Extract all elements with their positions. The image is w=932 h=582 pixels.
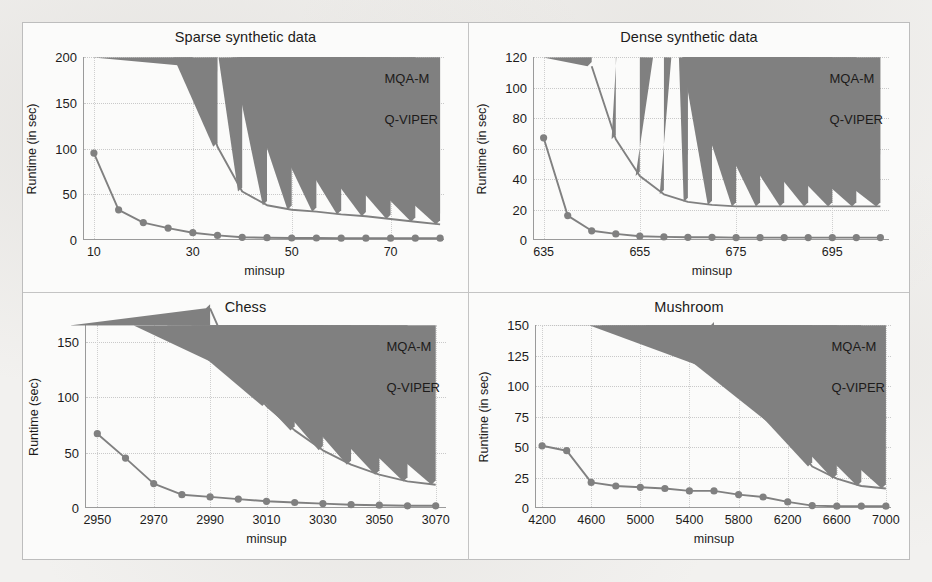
x-axis-tick-label: 3010 — [253, 513, 281, 527]
chart-panel-dense-synthetic-data: Dense synthetic data 0204060801001206356… — [469, 23, 909, 293]
plot-dense: 020406080100120635655675695Runtime (in s… — [533, 57, 889, 240]
plot-sparse: 05010015020010305070Runtime (in sec)mins… — [83, 57, 444, 240]
chart-panel-mushroom: Mushroom 0255075100125150420046005000540… — [469, 293, 909, 560]
x-axis-tick-label: 635 — [533, 245, 554, 259]
y-axis-tick-label: 120 — [505, 50, 527, 65]
circle-marker-icon — [351, 114, 381, 126]
circle-marker-icon — [781, 234, 788, 241]
circle-marker-icon — [829, 234, 836, 241]
circle-marker-icon — [757, 234, 764, 241]
circle-marker-icon — [387, 235, 394, 242]
y-axis-tick-label: 50 — [515, 440, 529, 455]
legend-item-q-viper[interactable]: Q-VIPER — [798, 380, 885, 395]
x-axis-tick-label: 2990 — [196, 513, 224, 527]
triangle-marker-icon — [353, 341, 383, 353]
circle-marker-icon — [858, 503, 865, 510]
x-axis-tick-label: 10 — [87, 245, 101, 259]
y-axis-tick-label: 100 — [505, 80, 527, 95]
circle-marker-icon — [263, 498, 270, 505]
circle-marker-icon — [710, 487, 717, 494]
legend-label: MQA-M — [385, 339, 432, 354]
circle-marker-icon — [362, 235, 369, 242]
x-axis-tick-label: 675 — [726, 245, 747, 259]
chart-legend: MQA-MQ-VIPER — [798, 339, 885, 421]
legend-item-q-viper[interactable]: Q-VIPER — [796, 112, 883, 127]
circle-marker-icon — [636, 233, 643, 240]
series-layer — [86, 325, 386, 475]
plot-chess: 0501001502950297029903010303030503070Run… — [85, 325, 446, 508]
legend-label: MQA-M — [828, 71, 875, 86]
x-axis-tick-label: 655 — [629, 245, 650, 259]
legend-item-mqa-m[interactable]: MQA-M — [798, 339, 885, 354]
circle-marker-icon — [140, 219, 147, 226]
circle-marker-icon — [150, 480, 157, 487]
chart-title-dense: Dense synthetic data — [469, 29, 909, 45]
y-axis-label: Runtime (in sec) — [475, 103, 489, 194]
x-axis-tick-label: 695 — [822, 245, 843, 259]
series-layer — [534, 57, 834, 207]
chart-title-mushroom: Mushroom — [469, 299, 909, 315]
y-axis-tick-label: 40 — [513, 172, 527, 187]
circle-marker-icon — [189, 229, 196, 236]
circle-marker-icon — [796, 114, 826, 126]
y-axis-tick-label: 100 — [57, 390, 79, 405]
x-axis-tick-label: 7000 — [872, 513, 900, 527]
circle-marker-icon — [660, 233, 667, 240]
circle-marker-icon — [807, 116, 814, 123]
triangle-marker-icon — [798, 341, 828, 353]
circle-marker-icon — [338, 235, 345, 242]
circle-marker-icon — [588, 479, 595, 486]
y-axis-tick-label: 50 — [65, 445, 79, 460]
circle-marker-icon — [833, 503, 840, 510]
circle-marker-icon — [207, 493, 214, 500]
x-axis-tick-label: 5000 — [626, 513, 654, 527]
circle-marker-icon — [90, 150, 97, 157]
plot-area: 0255075100125150420046005000540058006200… — [535, 325, 891, 508]
series-layer — [536, 325, 836, 475]
y-axis-tick-label: 150 — [57, 334, 79, 349]
y-axis-tick-label: 100 — [507, 379, 529, 394]
legend-label: MQA-M — [383, 71, 430, 86]
circle-marker-icon — [539, 442, 546, 449]
circle-marker-icon — [412, 235, 419, 242]
circle-marker-icon — [437, 235, 444, 242]
circle-marker-icon — [291, 499, 298, 506]
y-axis-label: Runtime (sec) — [27, 378, 41, 456]
circle-marker-icon — [263, 234, 270, 241]
circle-marker-icon — [637, 484, 644, 491]
y-axis-tick-label: 50 — [63, 187, 77, 202]
gridline-vertical — [886, 325, 887, 507]
circle-marker-icon — [115, 206, 122, 213]
x-axis-label: minsup — [86, 532, 447, 546]
chart-panel-sparse-synthetic-data: Sparse synthetic data 050100150200103050… — [23, 23, 469, 293]
circle-marker-icon — [877, 234, 884, 241]
triangle-marker-icon — [636, 57, 653, 176]
circle-marker-icon — [588, 227, 595, 234]
y-axis-tick-label: 125 — [507, 348, 529, 363]
figure-frame: Sparse synthetic data 050100150200103050… — [22, 22, 910, 560]
circle-marker-icon — [235, 496, 242, 503]
circle-marker-icon — [432, 502, 439, 509]
triangle-marker-icon — [796, 73, 826, 85]
legend-item-mqa-m[interactable]: MQA-M — [353, 339, 440, 354]
circle-marker-icon — [348, 501, 355, 508]
x-axis-tick-label: 30 — [186, 245, 200, 259]
legend-item-mqa-m[interactable]: MQA-M — [351, 71, 438, 86]
legend-label: Q-VIPER — [385, 380, 440, 395]
triangle-marker-icon — [351, 73, 381, 85]
triangle-marker-icon — [174, 57, 218, 147]
legend-item-q-viper[interactable]: Q-VIPER — [351, 112, 438, 127]
x-axis-tick-label: 50 — [285, 245, 299, 259]
y-axis-tick-label: 200 — [55, 50, 77, 65]
y-axis-tick-label: 75 — [515, 409, 529, 424]
circle-marker-icon — [540, 134, 547, 141]
circle-marker-icon — [735, 491, 742, 498]
circle-marker-icon — [404, 502, 411, 509]
x-axis-label: minsup — [534, 264, 890, 278]
chart-legend: MQA-MQ-VIPER — [796, 71, 883, 153]
legend-item-q-viper[interactable]: Q-VIPER — [353, 380, 440, 395]
legend-item-mqa-m[interactable]: MQA-M — [796, 71, 883, 86]
plot-area: 05010015020010305070Runtime (in sec)mins… — [83, 57, 444, 240]
legend-label: Q-VIPER — [383, 112, 438, 127]
circle-marker-icon — [313, 234, 320, 241]
